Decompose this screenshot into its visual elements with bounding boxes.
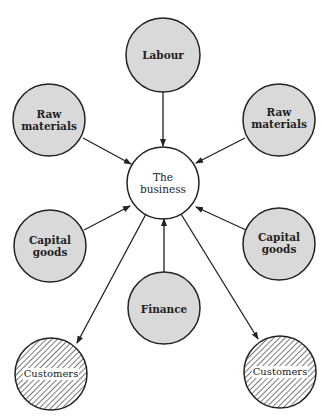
node-label: Raw [21, 108, 77, 120]
node-raw-materials-left: Rawmaterials [13, 103, 85, 137]
node-customers-right: Customers [244, 364, 316, 380]
node-finance: Finance [128, 294, 200, 324]
node-label: Customers [252, 366, 309, 378]
node-label: Finance [141, 303, 188, 315]
node-raw-materials-right: Rawmaterials [243, 101, 315, 135]
node-customers-left: Customers [15, 366, 87, 382]
node-label: Raw [251, 106, 307, 118]
node-label: business [140, 183, 186, 195]
arrow-raw-left [83, 138, 131, 164]
node-label: materials [251, 118, 307, 130]
node-label: goods [29, 246, 71, 258]
node-capital-goods-right: Capitalgoods [243, 226, 315, 260]
arrow-raw-right [196, 138, 245, 163]
node-label: Labour [142, 49, 184, 61]
node-labour: Labour [126, 40, 200, 70]
node-label: Capital [29, 234, 71, 246]
node-business: Thebusiness [127, 166, 199, 200]
node-capital-goods-left: Capitalgoods [14, 229, 86, 263]
arrow-capital-left [84, 206, 130, 230]
node-label: materials [21, 120, 77, 132]
node-label: Customers [23, 368, 80, 380]
node-label: Capital [258, 231, 300, 243]
arrow-capital-right [196, 207, 246, 230]
node-label: The [140, 171, 186, 183]
node-label: goods [258, 243, 300, 255]
